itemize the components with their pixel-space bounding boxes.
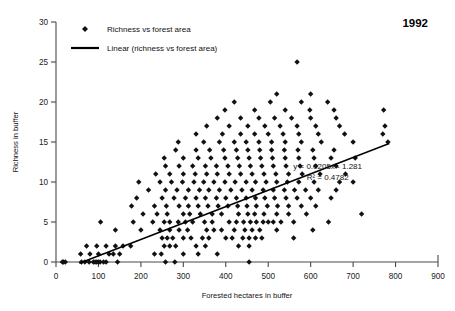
scatter-point	[223, 235, 228, 240]
scatter-point	[294, 59, 299, 64]
scatter-point	[283, 155, 288, 160]
scatter-point	[311, 155, 316, 160]
y-tick-label: 25	[39, 58, 49, 67]
x-axis-title: Forested hectares in buffer	[202, 291, 293, 300]
scatter-point	[78, 251, 83, 256]
scatter-point	[172, 259, 177, 264]
scatter-point	[170, 235, 175, 240]
scatter-point	[296, 179, 301, 184]
scatter-point	[195, 155, 200, 160]
scatter-point	[165, 235, 170, 240]
scatter-point	[203, 243, 208, 248]
scatter-point	[326, 219, 331, 224]
scatter-point	[167, 243, 172, 248]
scatter-point	[201, 179, 206, 184]
scatter-point	[193, 171, 198, 176]
scatter-point	[296, 155, 301, 160]
scatter-point	[313, 123, 318, 128]
scatter-point	[234, 195, 239, 200]
scatter-point	[207, 147, 212, 152]
scatter-point	[283, 107, 288, 112]
scatter-point	[234, 147, 239, 152]
scatter-point	[258, 155, 263, 160]
scatter-point	[316, 187, 321, 192]
scatter-point	[195, 203, 200, 208]
scatter-point	[117, 251, 122, 256]
x-tick-label: 0	[54, 272, 59, 281]
scatter-point	[274, 179, 279, 184]
scatter-point	[328, 195, 333, 200]
scatter-point	[226, 123, 231, 128]
scatter-point	[164, 203, 169, 208]
scatter-point	[204, 227, 209, 232]
scatter-point	[254, 219, 259, 224]
scatter-point	[190, 163, 195, 168]
scatter-point	[152, 203, 157, 208]
legend-marker-diamond	[82, 26, 88, 32]
scatter-point	[380, 131, 385, 136]
scatter-point	[272, 195, 277, 200]
scatter-point	[237, 163, 242, 168]
scatter-point	[185, 227, 190, 232]
scatter-point	[162, 243, 167, 248]
scatter-point	[249, 171, 254, 176]
scatter-point	[252, 211, 257, 216]
scatter-point	[222, 155, 227, 160]
scatter-point	[154, 211, 159, 216]
scatter-point	[134, 195, 139, 200]
scatter-point	[325, 99, 330, 104]
scatter-point	[286, 171, 291, 176]
scatter-point	[234, 219, 239, 224]
scatter-point	[228, 187, 233, 192]
chart-figure: 0510152025300100200300400500600700800900…	[0, 0, 455, 311]
scatter-point	[350, 139, 355, 144]
legend-label-trend: Linear (richness vs forest area)	[107, 44, 218, 53]
scatter-point	[259, 235, 264, 240]
scatter-point	[249, 227, 254, 232]
scatter-plot-svg: 0510152025300100200300400500600700800900…	[0, 0, 455, 311]
scatter-point	[286, 203, 291, 208]
scatter-point	[282, 187, 287, 192]
scatter-point	[278, 219, 283, 224]
scatter-point	[223, 195, 228, 200]
scatter-point	[211, 227, 216, 232]
scatter-point	[211, 179, 216, 184]
scatter-point	[146, 187, 151, 192]
scatter-point	[283, 139, 288, 144]
y-tick-label: 30	[39, 18, 49, 27]
scatter-point	[238, 131, 243, 136]
scatter-point	[136, 179, 141, 184]
scatter-point	[163, 259, 168, 264]
scatter-point	[183, 195, 188, 200]
scatter-point	[292, 187, 297, 192]
scatter-point	[200, 235, 205, 240]
y-tick-label: 10	[39, 178, 49, 187]
scatter-point	[94, 243, 99, 248]
scatter-point	[138, 227, 143, 232]
scatter-point	[214, 195, 219, 200]
scatter-point	[162, 219, 167, 224]
scatter-point	[246, 259, 251, 264]
scatter-point	[274, 91, 279, 96]
scatter-point	[206, 187, 211, 192]
scatter-point	[181, 171, 186, 176]
scatter-point	[203, 163, 208, 168]
regression-equation-label: y = 0.0205x - 1.281	[293, 162, 362, 171]
scatter-point	[262, 195, 267, 200]
scatter-point	[173, 147, 178, 152]
scatter-point	[328, 155, 333, 160]
y-tick-label: 15	[39, 138, 49, 147]
scatter-point	[245, 211, 250, 216]
scatter-point	[226, 171, 231, 176]
scatter-point	[186, 203, 191, 208]
scatter-point	[316, 131, 321, 136]
scatter-point	[111, 251, 116, 256]
scatter-point	[219, 211, 224, 216]
scatter-point	[220, 131, 225, 136]
scatter-point	[273, 171, 278, 176]
scatter-point	[167, 171, 172, 176]
scatter-point	[215, 171, 220, 176]
scatter-point	[310, 147, 315, 152]
scatter-point	[252, 107, 257, 112]
scatter-point	[236, 211, 241, 216]
